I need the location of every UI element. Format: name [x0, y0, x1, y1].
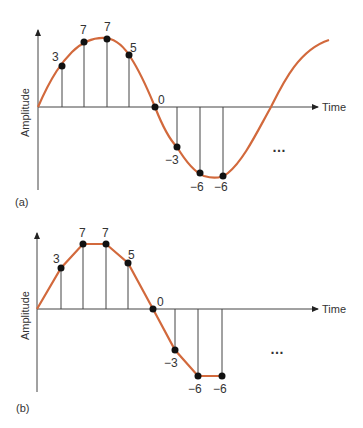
panel-a: 3 7 7 5 0 −3 −6 −6 Time Amplitude … (a) [15, 20, 346, 208]
panel-label-a: (a) [15, 196, 28, 208]
continuation-ellipsis-b: … [270, 341, 286, 357]
sample-label: 3 [53, 252, 60, 266]
analog-signal-curve-a [38, 38, 329, 178]
sampling-diagram: 3 7 7 5 0 −3 −6 −6 Time Amplitude … (a) [0, 0, 363, 428]
sample-label: 5 [130, 41, 137, 55]
sample-label: 0 [158, 93, 165, 107]
sample-label: −3 [165, 153, 179, 167]
continuation-ellipsis-a: … [272, 139, 288, 155]
x-axis-label-b: Time [322, 303, 346, 315]
sample-label: 7 [80, 23, 87, 37]
sample-label: 0 [157, 295, 164, 309]
sample-label: 7 [79, 226, 86, 240]
sample-label: −6 [214, 180, 228, 194]
panel-b: 3 7 7 5 0 −3 −6 −6 Time Amplitude … (b) [16, 226, 346, 414]
sample-stems-b [61, 244, 222, 376]
panel-label-b: (b) [16, 402, 29, 414]
sample-label: −6 [190, 180, 204, 194]
sample-label: 7 [104, 20, 111, 34]
x-axis-label-a: Time [322, 101, 346, 113]
sample-label: 3 [52, 50, 59, 64]
y-axis-label-a: Amplitude [19, 88, 31, 137]
sample-label: −6 [213, 382, 227, 396]
sample-label: −3 [164, 356, 178, 370]
y-axis-label-b: Amplitude [19, 291, 31, 340]
sample-label: −6 [188, 382, 202, 396]
sample-label: 5 [128, 248, 135, 262]
sample-label: 7 [102, 226, 109, 240]
